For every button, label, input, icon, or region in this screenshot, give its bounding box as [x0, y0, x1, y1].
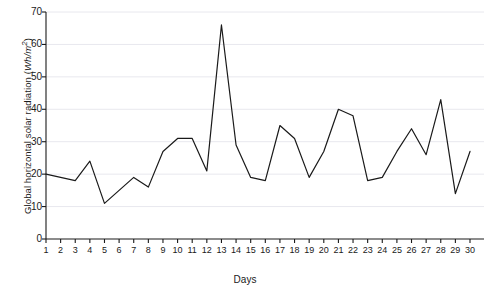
y-axis-ticks [42, 12, 46, 239]
x-axis-ticks [46, 239, 470, 243]
y-tick-label: 10 [20, 202, 42, 212]
y-tick-label: 60 [20, 39, 42, 49]
y-tick-label: 70 [20, 7, 42, 17]
y-tick-label: 50 [20, 72, 42, 82]
x-tick-label: 30 [460, 245, 480, 255]
y-tick-label: 20 [20, 169, 42, 179]
chart-container: Global horizontal solar radiation (Wh/m2… [0, 0, 490, 289]
x-axis-label: Days [0, 274, 490, 285]
axis-lines [46, 12, 484, 239]
y-tick-label: 0 [20, 234, 42, 244]
y-tick-label: 40 [20, 104, 42, 114]
data-line-series [46, 25, 470, 203]
y-tick-label: 30 [20, 137, 42, 147]
x-axis-tick-labels: 1234567891011121314151617181920212223242… [0, 245, 490, 259]
gridlines [46, 12, 484, 207]
